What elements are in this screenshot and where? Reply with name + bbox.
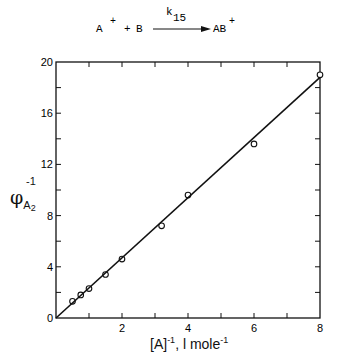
x-tick-label: 8 (317, 322, 323, 334)
y-axis-sub: A (23, 199, 30, 211)
x-tick-label: 2 (119, 322, 125, 334)
chart: 2468048121620 (0, 0, 351, 357)
y-axis-phi: φ (10, 186, 23, 208)
x-tick-label: 6 (251, 322, 257, 334)
data-point (317, 72, 323, 78)
x-axis-sup1: -1 (167, 335, 175, 345)
y-tick-label: 16 (41, 107, 53, 119)
x-axis-sup2: -1 (220, 335, 228, 345)
fit-line (56, 77, 320, 318)
y-tick-label: 8 (47, 210, 53, 222)
y-tick-label: 0 (47, 312, 53, 324)
y-axis-label: φA2-1 (10, 188, 36, 207)
y-tick-label: 20 (41, 56, 53, 68)
plot-frame (56, 62, 320, 318)
y-tick-label: 4 (47, 261, 53, 273)
y-axis-subsub: 2 (31, 203, 36, 213)
x-axis-main: [A] (150, 336, 167, 352)
x-axis-unit: , l mole (175, 336, 220, 352)
data-point (251, 141, 257, 147)
y-tick-label: 12 (41, 158, 53, 170)
x-axis-label: [A]-1, l mole-1 (150, 336, 228, 351)
x-tick-label: 4 (185, 322, 191, 334)
y-axis-sup: -1 (26, 176, 36, 187)
